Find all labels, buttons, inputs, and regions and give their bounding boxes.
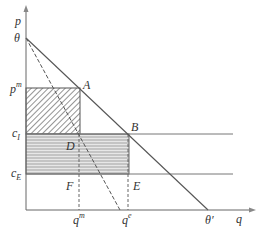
y-axis-arrow-icon <box>24 5 29 12</box>
x-axis-label: q <box>236 212 242 226</box>
monopoly-profit-region <box>26 88 80 134</box>
x-axis-arrow-icon <box>249 208 256 213</box>
point-D-label: D <box>65 139 75 153</box>
qe-label: qe <box>122 211 132 227</box>
theta-prime-label: θ′ <box>205 213 214 227</box>
y-axis-label: p <box>14 14 21 28</box>
pm-label: pm <box>9 80 22 96</box>
point-F-label: F <box>65 179 74 193</box>
diagram: p q θ pm cI cE qm qe θ′ A B D E F <box>0 0 260 232</box>
point-B-label: B <box>131 120 139 134</box>
cE-label: cE <box>11 166 21 182</box>
cI-label: cI <box>12 126 20 142</box>
qm-label: qm <box>73 211 85 227</box>
theta-label: θ <box>14 31 20 45</box>
cost-saving-region <box>26 134 129 174</box>
point-E-label: E <box>132 179 141 193</box>
point-A-label: A <box>82 78 91 92</box>
